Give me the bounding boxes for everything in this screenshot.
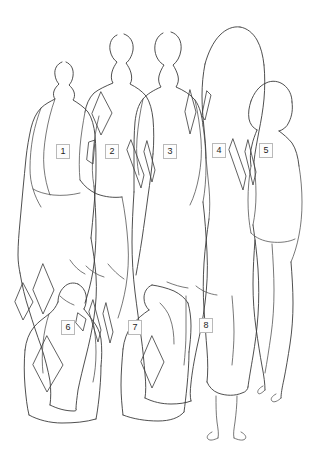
figure-label-4[interactable]: 4 [212,143,226,158]
figure-3-outline [132,32,207,404]
overlap-line-fragments [60,260,217,305]
figure-label-7[interactable]: 7 [128,320,142,335]
figure-2-outline [79,34,154,318]
figure-label-3[interactable]: 3 [163,144,177,159]
figure-label-6[interactable]: 6 [61,320,75,335]
figure-label-2[interactable]: 2 [105,144,119,159]
figure-label-1[interactable]: 1 [56,144,70,159]
figure-5-outline [248,81,302,402]
garment-detail-shapes [15,90,256,392]
figure-6-outline [24,283,102,423]
figure-7-outline [121,285,191,421]
figure-4-outline [202,27,265,440]
figure-label-5[interactable]: 5 [259,143,273,158]
diagram-canvas: 1 2 3 4 5 6 7 8 [0,0,316,449]
figure-label-8[interactable]: 8 [199,318,213,333]
figure-outline-drawing [0,0,316,449]
